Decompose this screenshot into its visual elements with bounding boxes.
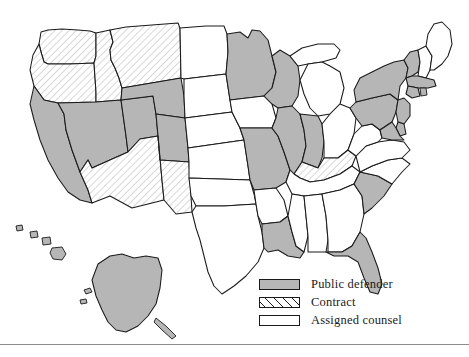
- state-NY: [354, 60, 408, 102]
- state-AK: [92, 254, 162, 332]
- state-SD: [184, 74, 232, 118]
- state-HI-oahu: [30, 231, 38, 238]
- state-HI-maui: [42, 237, 51, 245]
- state-RI: [420, 88, 427, 96]
- state-CT: [406, 86, 420, 98]
- state-ND: [180, 26, 228, 79]
- legend-swatch-public-defender: [259, 279, 300, 290]
- state-MN: [226, 30, 276, 100]
- state-VT: [404, 50, 420, 78]
- legend-label-assigned-counsel: Assigned counsel: [311, 314, 402, 327]
- state-HI-bigisland: [50, 247, 66, 260]
- legend-swatch-assigned-counsel: [259, 315, 300, 326]
- state-CO: [156, 114, 189, 162]
- bottom-rule: [0, 344, 469, 345]
- state-NJ: [396, 98, 410, 124]
- us-indigent-defense-map-figure: Public defender Contract Assigned counse…: [0, 0, 469, 357]
- state-TX: [192, 204, 264, 294]
- legend-label-public-defender: Public defender: [311, 278, 393, 291]
- legend: Public defender Contract Assigned counse…: [259, 276, 409, 330]
- state-WA: [39, 29, 96, 64]
- legend-row-public-defender: Public defender: [259, 276, 409, 293]
- legend-label-contract: Contract: [311, 296, 356, 309]
- legend-row-contract: Contract: [259, 294, 409, 311]
- state-OK: [189, 178, 256, 206]
- state-AK-aleutian-2: [80, 299, 87, 304]
- state-MT: [110, 23, 181, 88]
- legend-swatch-contract: [259, 297, 300, 308]
- state-AK-panhandle: [154, 318, 176, 339]
- state-AR: [254, 188, 288, 224]
- legend-row-assigned-counsel: Assigned counsel: [259, 312, 409, 329]
- state-AK-aleutian-1: [84, 288, 92, 294]
- state-HI-kauai: [16, 225, 23, 231]
